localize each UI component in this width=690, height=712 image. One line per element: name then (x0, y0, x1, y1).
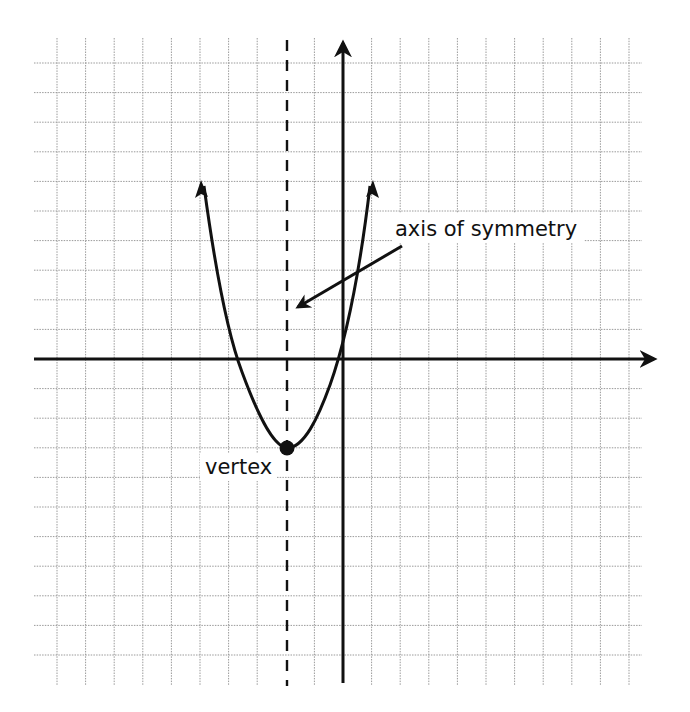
parabola-right-arrowhead (366, 180, 379, 198)
annotation-arrow (298, 246, 402, 307)
vertex-point (280, 441, 295, 456)
vertex-label: vertex (205, 455, 272, 479)
axis-of-symmetry-label: axis of symmetry (395, 217, 577, 241)
parabola-left-arrowhead (195, 180, 208, 198)
parabola-diagram: axis of symmetry vertex (0, 0, 690, 712)
